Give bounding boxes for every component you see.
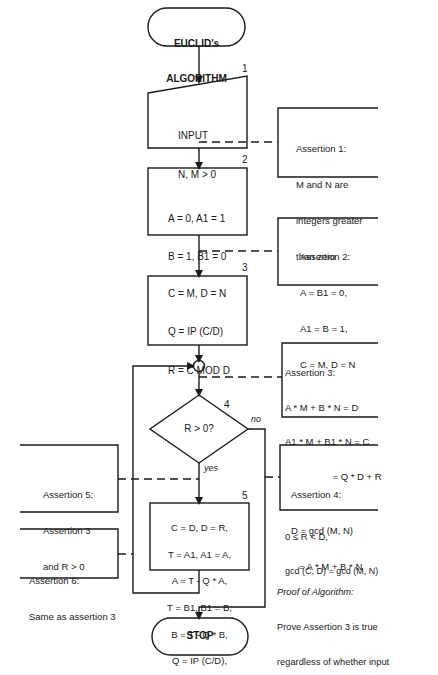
assertion-6-line-1: Assertion 6: — [29, 575, 116, 587]
step-number-5: 5 — [242, 490, 248, 501]
box-5-line-1: C = D, D = R, — [150, 524, 249, 533]
assertion-3-line-3: A1 * M + B1 * N = C — [285, 436, 382, 448]
assertion-2-line-1: Assertion 2: — [300, 251, 355, 263]
proof-text: Proof of Algorithm: Prove Assertion 3 is… — [277, 564, 409, 675]
assertion-6-line-2: Same as assertion 3 — [29, 611, 116, 623]
no-branch-label: no — [251, 414, 261, 426]
assertion-3-line-2: A * M + B * N = D — [285, 402, 382, 414]
assertion-3-line-1: Assertion 3: — [285, 367, 382, 379]
box-5-line-2: T = A1, A1 = A, — [150, 551, 249, 560]
step-number-3: 3 — [242, 262, 248, 273]
stop-label: STOP — [152, 630, 248, 642]
box-2-line-1: A = 0, A1 = 1 — [168, 213, 226, 226]
assertion-4-line-2: D = gcd (M, N) — [291, 525, 362, 537]
input-text: INPUT N, M > 0 — [178, 103, 216, 194]
assertion-2-line-3: A1 = B = 1, — [300, 323, 355, 335]
proof-heading: Proof of Algorithm: — [277, 587, 409, 599]
step-number-2: 2 — [242, 154, 248, 165]
box-3-text: Q = IP (C/D) R = C MOD D — [168, 299, 230, 390]
assertion-2-line-2: A = B1 = 0, — [300, 287, 355, 299]
proof-line-1: Prove Assertion 3 is true — [277, 622, 409, 634]
yes-branch-label: yes — [204, 463, 218, 475]
box-3-line-1: Q = IP (C/D) — [168, 325, 230, 338]
box-3-line-2: R = C MOD D — [168, 364, 230, 377]
box-5-line-6: Q = IP (C/D), — [150, 657, 249, 666]
assertion-1-line-3: integers greater — [296, 215, 363, 227]
step-number-1: 1 — [242, 63, 248, 74]
start-label-line-1: EUCLID's — [148, 38, 245, 50]
start-label-line-2: ALGORITHM — [148, 73, 245, 85]
assertion-5-line-1: Assertion 5: — [43, 489, 93, 501]
box-2-line-2: B = 1, B1 = 0 — [168, 251, 226, 264]
box-2-text: A = 0, A1 = 1 B = 1, B1 = 0 C = M, D = N — [168, 188, 226, 313]
start-label: EUCLID's ALGORITHM — [148, 15, 245, 96]
assertion-5-line-2: Assertion 3 — [43, 525, 93, 537]
decision-text: R > 0? — [160, 423, 238, 435]
box-5-line-4: T = B1, B1 = B, — [150, 604, 249, 613]
assertion-4-line-1: Assertion 4: — [291, 489, 362, 501]
input-line-1: INPUT — [178, 129, 216, 142]
input-line-2: N, M > 0 — [178, 168, 216, 181]
assertion-1-line-1: Assertion 1: — [296, 143, 363, 155]
box-5-text: C = D, D = R, T = A1, A1 = A, A = T - Q … — [150, 506, 249, 675]
assertion-1-line-2: M and N are — [296, 179, 363, 191]
assertion-6-text: Assertion 6: Same as assertion 3 — [29, 551, 116, 635]
step-number-4: 4 — [224, 399, 230, 410]
proof-line-2: regardless of whether input — [277, 657, 409, 669]
box-5-line-3: A = T - Q * A, — [150, 577, 249, 586]
